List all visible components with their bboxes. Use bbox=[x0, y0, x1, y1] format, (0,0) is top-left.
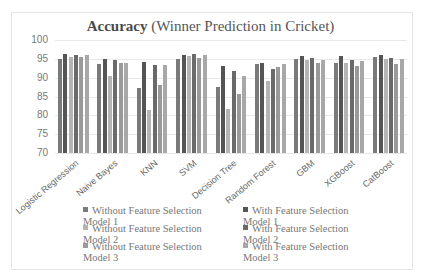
bar bbox=[124, 63, 128, 153]
y-tick-label: 70 bbox=[26, 147, 48, 158]
bar bbox=[355, 66, 359, 153]
bar bbox=[153, 65, 157, 153]
bar bbox=[400, 59, 404, 153]
bar bbox=[266, 81, 270, 153]
legend-swatch-icon bbox=[83, 207, 88, 212]
bar bbox=[242, 76, 246, 153]
bar bbox=[58, 59, 62, 153]
bar bbox=[158, 85, 162, 153]
bar bbox=[271, 69, 275, 153]
bar bbox=[74, 55, 78, 153]
bar bbox=[108, 76, 112, 153]
bar bbox=[344, 63, 348, 153]
bar bbox=[316, 63, 320, 153]
bar bbox=[216, 87, 220, 153]
bar bbox=[389, 58, 393, 153]
legend-label: With Feature Selection Model 3 bbox=[243, 241, 348, 263]
bar bbox=[187, 56, 191, 153]
bar bbox=[373, 57, 377, 153]
bar bbox=[232, 71, 236, 153]
bar bbox=[103, 59, 107, 153]
bar bbox=[119, 63, 123, 153]
bar bbox=[260, 63, 264, 153]
bar bbox=[182, 55, 186, 153]
bar bbox=[276, 67, 280, 153]
bar bbox=[137, 88, 141, 153]
bar bbox=[379, 55, 383, 153]
legend-label: Without Feature Selection Model 3 bbox=[83, 241, 202, 263]
bar bbox=[360, 61, 364, 153]
legend-item: With Feature Selection Model 3 bbox=[243, 241, 403, 263]
bar bbox=[394, 64, 398, 153]
legend-swatch-icon bbox=[243, 243, 248, 248]
bar bbox=[305, 60, 309, 153]
bar bbox=[384, 59, 388, 153]
chart-title-bold: Accuracy bbox=[87, 18, 148, 34]
legend-swatch-icon bbox=[83, 243, 88, 248]
bar bbox=[97, 64, 101, 153]
y-tick-label: 95 bbox=[26, 53, 48, 64]
bar bbox=[176, 59, 180, 153]
chart-title-rest: (Winner Prediction in Cricket) bbox=[147, 18, 334, 34]
gridline bbox=[55, 59, 407, 60]
bar bbox=[294, 59, 298, 153]
bar bbox=[350, 60, 354, 153]
y-tick-label: 75 bbox=[26, 128, 48, 139]
bar bbox=[163, 65, 167, 153]
bar bbox=[321, 60, 325, 153]
bar bbox=[79, 57, 83, 153]
chart-title: Accuracy (Winner Prediction in Cricket) bbox=[0, 18, 421, 35]
bar bbox=[300, 56, 304, 153]
gridline bbox=[55, 153, 407, 154]
bar bbox=[69, 57, 73, 153]
bar bbox=[203, 55, 207, 153]
bar bbox=[113, 60, 117, 153]
legend-item: Without Feature Selection Model 3 bbox=[83, 241, 243, 263]
bar bbox=[221, 66, 225, 153]
bar bbox=[63, 54, 67, 153]
bar bbox=[142, 62, 146, 153]
bar bbox=[192, 54, 196, 153]
bar bbox=[85, 55, 89, 153]
bar bbox=[197, 58, 201, 153]
bar bbox=[147, 110, 151, 153]
bar bbox=[310, 58, 314, 153]
bar bbox=[339, 56, 343, 153]
bar bbox=[255, 64, 259, 153]
y-tick-label: 85 bbox=[26, 91, 48, 102]
y-tick-label: 80 bbox=[26, 109, 48, 120]
bar bbox=[237, 94, 241, 153]
y-tick-label: 100 bbox=[26, 34, 48, 45]
y-tick-label: 90 bbox=[26, 72, 48, 83]
bar bbox=[334, 63, 338, 153]
bar bbox=[282, 64, 286, 153]
bar bbox=[226, 109, 230, 153]
gridline bbox=[55, 40, 407, 41]
